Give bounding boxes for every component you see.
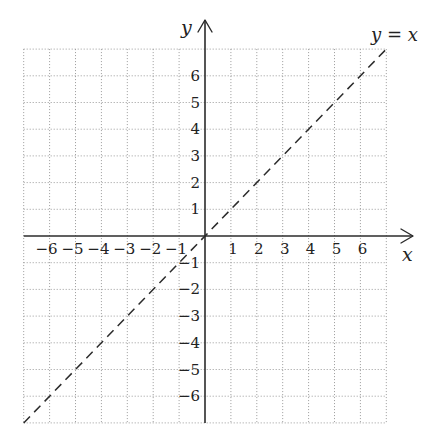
y-tick-label: −3	[178, 307, 200, 325]
x-tick-labels: −6−5−4−3−2−1123456	[36, 240, 368, 258]
x-tick-label: 4	[306, 240, 316, 258]
x-tick-label: −5	[61, 240, 83, 258]
y-tick-label: −6	[178, 387, 200, 405]
y-tick-label: 2	[190, 174, 200, 192]
x-axis-label: x	[402, 243, 413, 265]
x-tick-label: −2	[139, 240, 161, 258]
x-tick-label: 2	[254, 240, 264, 258]
x-tick-label: 6	[358, 240, 368, 258]
x-tick-label: −4	[87, 240, 109, 258]
x-tick-label: −6	[36, 240, 58, 258]
series-label-eq: =	[381, 24, 408, 45]
x-tick-label: 3	[280, 240, 290, 258]
y-tick-label: 1	[190, 200, 200, 218]
y-tick-label: 5	[190, 94, 200, 112]
y-tick-label: −2	[178, 280, 200, 298]
y-tick-label: 6	[190, 67, 200, 85]
x-tick-label: 5	[332, 240, 342, 258]
series-label-y-equals-x: y = x	[370, 24, 418, 45]
x-tick-label: −3	[113, 240, 135, 258]
coordinate-plane: −6−5−4−3−2−1123456 −6−5−4−3−2−1123456 y …	[0, 0, 430, 437]
y-tick-label: −1	[178, 254, 200, 272]
axes	[24, 20, 413, 423]
y-tick-label: 4	[190, 120, 200, 138]
x-tick-label: 1	[228, 240, 238, 258]
y-tick-label: 3	[190, 147, 200, 165]
y-axis-label: y	[180, 16, 192, 38]
y-tick-label: −5	[178, 361, 200, 379]
y-tick-label: −4	[178, 334, 200, 352]
series-label-rhs: x	[408, 24, 418, 45]
